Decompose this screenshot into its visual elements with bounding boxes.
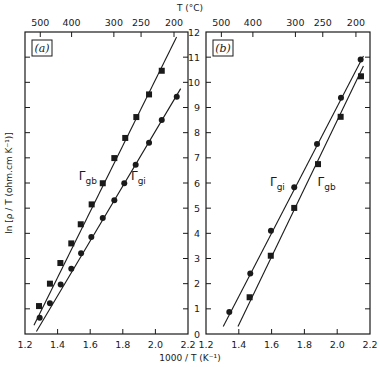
square-marker	[268, 253, 274, 259]
circle-marker	[291, 184, 297, 190]
x-tick-label: 1.2	[198, 339, 213, 350]
square-marker	[133, 114, 139, 120]
square-marker	[146, 91, 152, 97]
x-tick-label: 1.4	[231, 339, 246, 350]
circle-marker	[338, 95, 344, 101]
square-marker	[358, 73, 364, 79]
circle-marker	[314, 141, 320, 147]
circle-marker	[226, 309, 232, 315]
square-marker	[122, 135, 128, 141]
top-tick-label: 400	[244, 17, 262, 28]
circle-marker	[146, 140, 152, 146]
top-tick-label: 500	[212, 17, 230, 28]
chart-canvas: 1.21.41.61.82.02.2500400300250200(a)ΓgbΓ…	[0, 0, 380, 367]
y-tick-label: 11	[188, 52, 200, 63]
y-tick-label: 7	[194, 152, 200, 163]
square-marker	[57, 260, 63, 266]
y-tick-label: 6	[194, 178, 200, 189]
y-tick-label: 8	[194, 127, 200, 138]
x-tick-label: 1.6	[83, 339, 98, 350]
top-tick-label: 200	[165, 17, 183, 28]
circle-marker	[111, 197, 117, 203]
square-marker	[78, 221, 84, 227]
y-tick-label: 4	[194, 228, 200, 239]
x-tick-label: 1.8	[115, 339, 130, 350]
panel-b: 1.21.41.61.82.02.25004003002502000123456…	[188, 17, 378, 350]
square-marker	[36, 303, 42, 309]
top-tick-label: 500	[31, 17, 49, 28]
circle-marker	[133, 162, 139, 168]
circle-marker	[68, 266, 74, 272]
series-gb: Γgb	[238, 66, 364, 326]
left-axis-title: ln [ρ / T (ohm.cm K⁻¹)]	[4, 132, 14, 234]
x-tick-label: 2.2	[180, 339, 195, 350]
square-marker	[111, 155, 117, 161]
x-tick-label: 2.2	[362, 339, 377, 350]
top-axis-title: T (°C)	[176, 3, 203, 13]
x-tick-label: 1.2	[17, 339, 32, 350]
circle-marker	[47, 300, 53, 306]
square-marker	[68, 240, 74, 246]
bottom-axis-title: 1000 / T (K⁻¹)	[159, 353, 220, 363]
series-label: Γgb	[318, 175, 336, 192]
top-tick-label: 400	[63, 17, 81, 28]
circle-marker	[121, 180, 127, 186]
panel-label: (b)	[215, 42, 231, 55]
fit-line	[36, 89, 180, 332]
y-tick-label: 5	[194, 203, 200, 214]
y-tick-label: 10	[188, 77, 200, 88]
square-marker	[338, 114, 344, 120]
figure: 1.21.41.61.82.02.2500400300250200(a)ΓgbΓ…	[0, 0, 380, 367]
square-marker	[247, 294, 253, 300]
plot-frame	[25, 32, 188, 334]
series-gb: Γgb	[34, 37, 177, 325]
plot-frame	[206, 32, 370, 334]
series-label: Γgi	[131, 169, 146, 186]
circle-marker	[159, 117, 165, 123]
top-tick-label: 250	[132, 17, 150, 28]
circle-marker	[268, 228, 274, 234]
square-marker	[100, 180, 106, 186]
series-gi: Γgi	[223, 56, 363, 327]
circle-marker	[247, 271, 253, 277]
top-tick-label: 300	[286, 17, 304, 28]
x-tick-label: 1.6	[264, 339, 279, 350]
y-tick-label: 12	[188, 27, 200, 38]
series-label: Γgi	[270, 175, 285, 192]
x-tick-label: 1.8	[297, 339, 312, 350]
square-marker	[315, 161, 321, 167]
x-tick-label: 2.0	[148, 339, 163, 350]
square-marker	[47, 281, 53, 287]
circle-marker	[88, 234, 94, 240]
y-tick-label: 1	[194, 303, 200, 314]
circle-marker	[78, 250, 84, 256]
top-tick-label: 200	[347, 17, 365, 28]
circle-marker	[174, 94, 180, 100]
series-label: Γgb	[79, 169, 97, 186]
square-marker	[291, 205, 297, 211]
x-tick-label: 1.4	[50, 339, 65, 350]
top-tick-label: 250	[314, 17, 332, 28]
square-marker	[89, 201, 95, 207]
top-tick-label: 300	[105, 17, 123, 28]
series-gi: Γgi	[36, 89, 180, 332]
circle-marker	[37, 315, 43, 321]
panel-label: (a)	[34, 42, 49, 55]
fit-line	[238, 66, 363, 326]
circle-marker	[100, 215, 106, 221]
y-tick-label: 9	[194, 102, 200, 113]
y-tick-label: 2	[194, 278, 200, 289]
circle-marker	[58, 281, 64, 287]
square-marker	[159, 68, 165, 74]
y-tick-label: 0	[194, 329, 200, 340]
x-tick-label: 2.0	[330, 339, 345, 350]
panel-a: 1.21.41.61.82.02.2500400300250200(a)ΓgbΓ…	[17, 17, 195, 350]
y-tick-label: 3	[194, 253, 200, 264]
circle-marker	[358, 56, 364, 62]
